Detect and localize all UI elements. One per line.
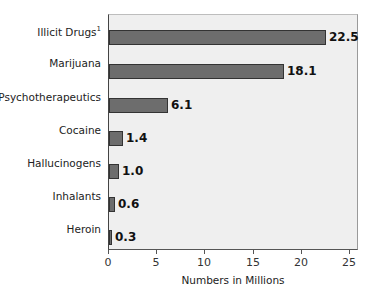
category-label-psychotherapeutics: Psychotherapeutics [0,90,101,105]
bar-heroin [109,230,112,245]
plot-area: 22.5 18.1 6.1 1.4 1.0 0.6 0.3 [108,14,358,250]
category-label-marijuana: Marijuana [49,56,101,71]
x-tick-label-20: 20 [286,256,316,269]
bar-inhalants [109,197,115,212]
value-label-heroin: 0.3 [115,230,136,245]
x-tick-15 [253,250,254,254]
category-label-hallucinogens: Hallucinogens [27,156,101,171]
x-axis-title: Numbers in Millions [108,274,358,286]
x-tick-label-15: 15 [238,256,268,269]
value-label-cocaine: 1.4 [126,131,147,146]
value-label-psychotherapeutics: 6.1 [171,98,192,113]
x-tick-25 [349,250,350,254]
x-tick-label-5: 5 [141,256,171,269]
x-tick-label-10: 10 [189,256,219,269]
bar-illicit-drugs [109,30,326,45]
value-label-illicit-drugs: 22.5 [329,30,359,45]
bar-hallucinogens [109,164,119,179]
category-label-illicit-drugs: Illicit Drugs1 [37,22,101,40]
x-tick-0 [108,250,109,254]
bar-psychotherapeutics [109,98,168,113]
x-tick-label-0: 0 [93,256,123,269]
bar-marijuana [109,64,284,79]
category-label-heroin: Heroin [67,222,101,237]
x-tick-label-25: 25 [334,256,364,269]
value-label-marijuana: 18.1 [287,64,317,79]
x-tick-5 [156,250,157,254]
value-label-hallucinogens: 1.0 [122,164,143,179]
value-label-inhalants: 0.6 [118,197,139,212]
x-tick-10 [204,250,205,254]
bar-cocaine [109,131,123,146]
category-label-cocaine: Cocaine [59,123,101,138]
category-label-inhalants: Inhalants [53,189,101,204]
x-tick-20 [301,250,302,254]
